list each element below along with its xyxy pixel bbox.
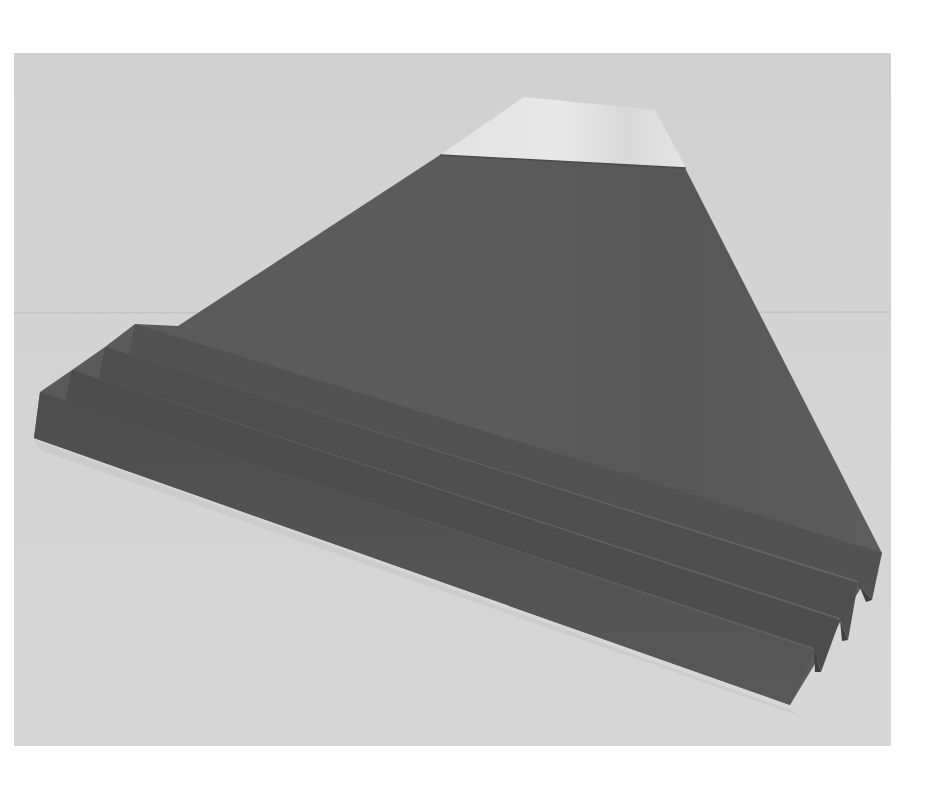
image-canvas: Grayscale photo of a folded paper mounta… (0, 0, 948, 786)
origami-mountain-illustration (14, 53, 891, 746)
photograph (14, 53, 891, 746)
